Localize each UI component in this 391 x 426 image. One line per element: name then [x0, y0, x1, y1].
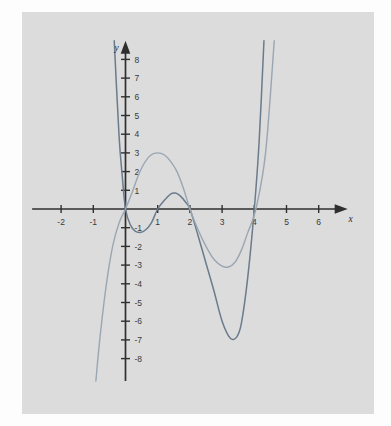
coordinate-plane: -2-112345687654321-1-2-3-4-5-6-7-8 xy — [22, 12, 374, 414]
x-tick-label-1: 1 — [155, 217, 160, 227]
plot-panel: -2-112345687654321-1-2-3-4-5-6-7-8 xy — [22, 12, 374, 414]
y-tick-label-6: 6 — [135, 92, 140, 102]
y-tick-label--2: -2 — [135, 242, 143, 252]
y-tick-label-4: 4 — [135, 129, 140, 139]
x-tick-label-3: 3 — [220, 217, 225, 227]
y-tick-label-5: 5 — [135, 111, 140, 121]
y-tick-label-7: 7 — [135, 73, 140, 83]
x-axis-label: x — [348, 214, 354, 224]
y-tick-label--6: -6 — [135, 316, 143, 326]
x-tick-label--1: -1 — [90, 217, 98, 227]
curves-group — [96, 41, 274, 381]
y-tick-label-3: 3 — [135, 148, 140, 158]
curve-light-curve — [96, 41, 274, 381]
y-tick-label--4: -4 — [135, 279, 143, 289]
x-tick-label-5: 5 — [284, 217, 289, 227]
figure-root: -2-112345687654321-1-2-3-4-5-6-7-8 xy — [0, 0, 391, 426]
y-tick-label--7: -7 — [135, 335, 143, 345]
x-tick-label-2: 2 — [188, 217, 193, 227]
y-tick-label-1: 1 — [135, 186, 140, 196]
y-axis-arrowhead — [121, 41, 131, 54]
axis-names-group: xy — [113, 43, 353, 224]
y-axis-label: y — [113, 43, 119, 53]
x-tick-label-6: 6 — [316, 217, 321, 227]
y-tick-label--5: -5 — [135, 298, 143, 308]
y-tick-label--3: -3 — [135, 260, 143, 270]
y-tick-label-8: 8 — [135, 55, 140, 65]
x-tick-label--2: -2 — [57, 217, 65, 227]
y-tick-label--8: -8 — [135, 354, 143, 364]
x-axis-arrowhead — [335, 204, 348, 214]
